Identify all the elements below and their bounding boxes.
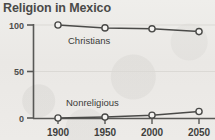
- nonreligious-marker-1950: [102, 114, 108, 120]
- nonreligious-marker-2000: [149, 112, 155, 118]
- x-tick-label-2050: 2050: [188, 127, 211, 138]
- nonreligious-marker-1900: [55, 115, 61, 121]
- christians-marker-2000: [149, 26, 155, 32]
- x-tick-label-1900: 1900: [47, 127, 70, 138]
- series-label-christians: Christians: [68, 35, 110, 46]
- christians-marker-1900: [55, 22, 61, 28]
- chart-container: Religion in Mexico 100 50 0 1900: [0, 0, 215, 140]
- x-tick-label-1950: 1950: [94, 127, 117, 138]
- series-label-nonreligious: Nonreligious: [66, 97, 119, 108]
- christians-marker-1950: [102, 25, 108, 31]
- gridlines: [33, 25, 215, 72]
- christians-marker-2050: [196, 29, 202, 35]
- y-axis-ticks: [27, 25, 33, 118]
- series-christians: [55, 22, 202, 35]
- y-tick-label-0: 0: [19, 114, 24, 124]
- line-chart-plot: 100 50 0 1900 1950 2000 2050: [0, 0, 215, 140]
- christians-line: [58, 25, 199, 32]
- x-tick-label-2000: 2000: [141, 127, 164, 138]
- y-tick-label-100: 100: [9, 21, 24, 31]
- nonreligious-line: [58, 112, 199, 119]
- y-tick-label-50: 50: [14, 67, 24, 77]
- nonreligious-marker-2050: [196, 108, 202, 114]
